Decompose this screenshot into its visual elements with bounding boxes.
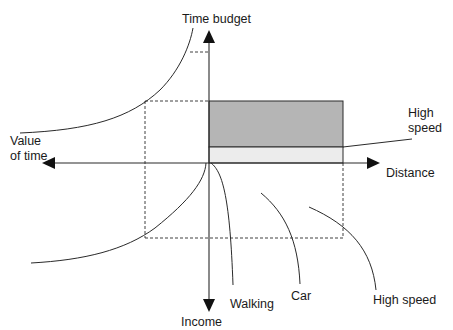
label-high-speed-band-line1: High xyxy=(408,106,434,120)
high-speed-region-dark xyxy=(209,101,343,147)
axis-label-time-budget: Time budget xyxy=(182,12,252,26)
low-speed-region-light xyxy=(209,147,343,163)
income-value-curve xyxy=(31,163,206,263)
transport-time-budget-diagram: Time budget Value of time Distance Incom… xyxy=(0,0,453,330)
axis-label-value-of-time-line1: Value xyxy=(10,134,41,148)
label-walking: Walking xyxy=(230,297,274,311)
high-speed-connector-line xyxy=(343,139,412,147)
axis-label-income: Income xyxy=(181,315,222,329)
high-speed-curve xyxy=(309,207,376,290)
axis-label-value-of-time-line2: of time xyxy=(10,149,48,163)
arrow-up-icon xyxy=(203,30,215,43)
label-car: Car xyxy=(291,289,311,303)
value-of-time-curve xyxy=(20,28,193,133)
label-high-speed-band-line2: speed xyxy=(408,121,442,135)
label-high-speed: High speed xyxy=(373,293,436,307)
axes xyxy=(52,40,368,300)
axis-label-distance: Distance xyxy=(386,166,435,180)
arrow-right-icon xyxy=(367,157,380,169)
car-curve xyxy=(261,193,300,284)
walking-curve xyxy=(211,163,233,285)
arrow-down-icon xyxy=(203,299,215,312)
